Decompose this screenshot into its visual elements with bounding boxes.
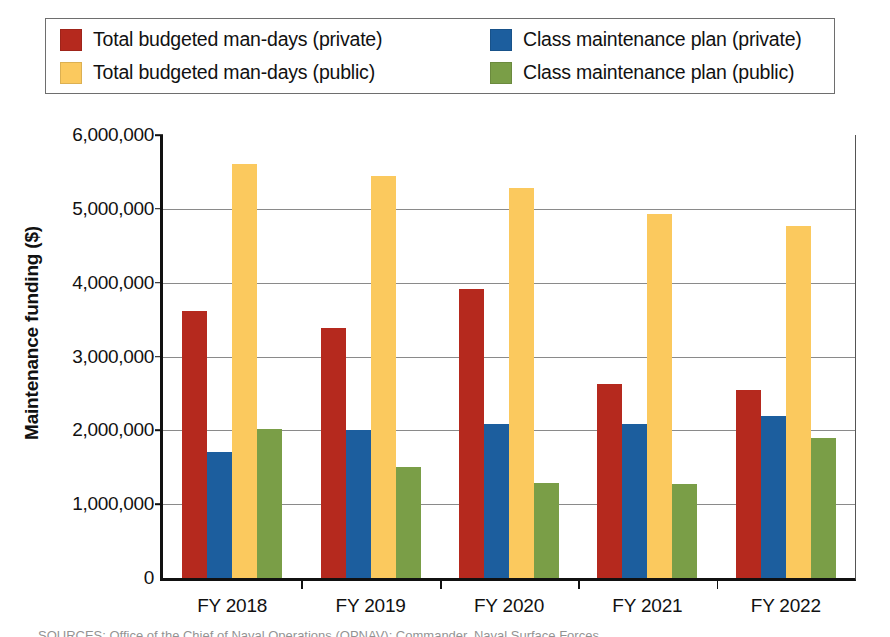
y-axis-tick-mark — [155, 503, 163, 505]
bar[interactable] — [207, 452, 232, 578]
bar[interactable] — [622, 424, 647, 578]
bar[interactable] — [459, 289, 484, 578]
y-axis-tick-mark — [155, 282, 163, 284]
y-axis-tick-mark — [155, 208, 163, 210]
x-axis-tick-mark — [440, 578, 442, 589]
y-axis-tick-mark — [155, 134, 163, 136]
y-axis-tick-label: 3,000,000 — [72, 346, 154, 368]
legend-entry-total-budgeted-public: Total budgeted man-days (public) — [60, 62, 490, 84]
y-axis-tick-mark — [155, 430, 163, 432]
legend-label: Total budgeted man-days (private) — [93, 30, 382, 50]
bar[interactable] — [534, 483, 559, 578]
bar[interactable] — [232, 164, 257, 578]
bar[interactable] — [597, 384, 622, 578]
bar-group — [301, 135, 439, 578]
y-axis-tick-label: 5,000,000 — [72, 198, 154, 220]
legend-swatch-icon — [490, 29, 512, 51]
y-axis-tick-label: 4,000,000 — [72, 272, 154, 294]
bar[interactable] — [484, 424, 509, 578]
bar[interactable] — [672, 484, 697, 579]
x-axis-tick-mark — [301, 578, 303, 589]
bar[interactable] — [396, 467, 421, 578]
legend-entry-class-maintenance-public: Class maintenance plan (public) — [490, 62, 850, 84]
bar-group — [578, 135, 716, 578]
chart-legend: Total budgeted man-days (private) Class … — [45, 18, 835, 94]
y-axis-tick-mark — [155, 356, 163, 358]
bar[interactable] — [736, 390, 761, 578]
x-axis-tick-label: FY 2022 — [751, 595, 821, 617]
x-axis-tick-label: FY 2019 — [336, 595, 406, 617]
legend-swatch-icon — [60, 62, 82, 84]
legend-label: Total budgeted man-days (public) — [93, 63, 375, 83]
y-axis-tick-label: 0 — [144, 567, 154, 589]
chart-caption: SOURCES: Office of the Chief of Naval Op… — [38, 628, 858, 637]
legend-entry-class-maintenance-private: Class maintenance plan (private) — [490, 29, 850, 51]
legend-swatch-icon — [60, 29, 82, 51]
bar-group — [717, 135, 855, 578]
bar[interactable] — [761, 416, 786, 578]
y-axis-tick-label: 2,000,000 — [72, 419, 154, 441]
x-axis-tick-label: FY 2020 — [474, 595, 544, 617]
bar[interactable] — [346, 430, 371, 578]
y-axis-tick-label: 1,000,000 — [72, 493, 154, 515]
legend-label: Class maintenance plan (private) — [523, 30, 802, 50]
bar[interactable] — [811, 438, 836, 578]
legend-label: Class maintenance plan (public) — [523, 63, 794, 83]
x-axis-tick-mark — [717, 578, 719, 589]
bar[interactable] — [509, 188, 534, 578]
plot-area: 01,000,0002,000,0003,000,0004,000,0005,0… — [160, 135, 856, 581]
bar[interactable] — [321, 328, 346, 578]
bar[interactable] — [786, 226, 811, 578]
bar-group — [163, 135, 301, 578]
bar-group — [440, 135, 578, 578]
bar[interactable] — [371, 176, 396, 578]
legend-entry-total-budgeted-private: Total budgeted man-days (private) — [60, 29, 490, 51]
x-axis-tick-label: FY 2018 — [197, 595, 267, 617]
bar-chart: Maintenance funding ($) 01,000,0002,000,… — [0, 100, 890, 600]
y-axis-title: Maintenance funding ($) — [21, 133, 43, 533]
x-axis-tick-mark — [578, 578, 580, 589]
legend-swatch-icon — [490, 62, 512, 84]
bar[interactable] — [647, 214, 672, 578]
y-axis-tick-label: 6,000,000 — [72, 124, 154, 146]
x-axis-tick-label: FY 2021 — [612, 595, 682, 617]
bar[interactable] — [182, 311, 207, 578]
bar[interactable] — [257, 429, 282, 578]
